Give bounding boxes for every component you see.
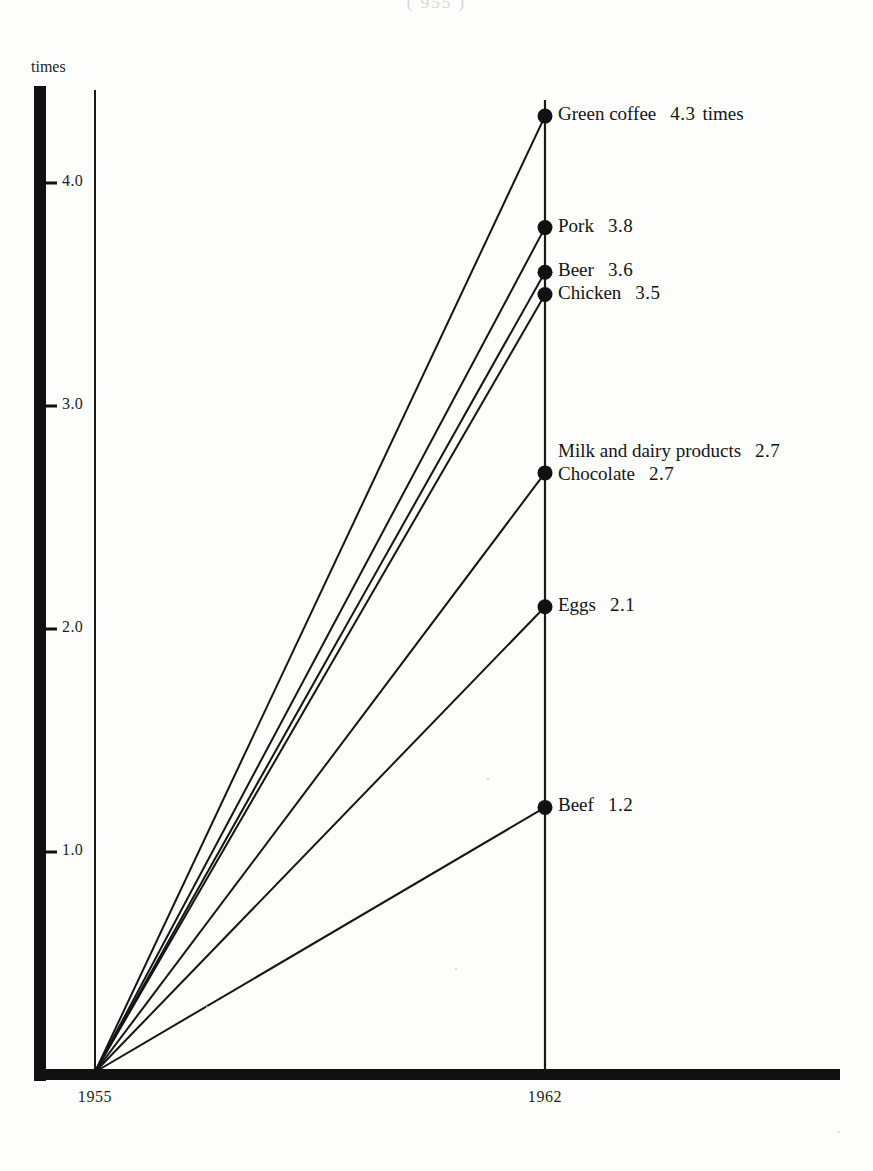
x-tick-label-1962: 1962 (528, 1088, 562, 1106)
series-endpoint-dot (538, 220, 553, 235)
series-endpoint-dot (538, 800, 553, 815)
series-line (95, 607, 545, 1072)
series-line (95, 807, 545, 1072)
paper-speckle (838, 1131, 840, 1133)
series-endpoint-dot (538, 287, 553, 302)
y-tick-label: 3.0 (62, 395, 83, 413)
series-value: 2.7 (755, 440, 780, 461)
series-label-pork: Pork3.8 (558, 215, 633, 236)
series-line (95, 116, 545, 1072)
series-endpoint-dot (538, 465, 553, 480)
y-axis-line (34, 86, 46, 1081)
y-axis-ticks (46, 182, 57, 854)
series-value: 4.3 (670, 103, 695, 124)
y-tick-mark (46, 182, 57, 185)
chart-page: ( 955 ) times 4.03.02.01.0 19551962 Gree… (0, 0, 873, 1171)
x-axis-line (34, 1069, 840, 1080)
y-tick-label: 1.0 (62, 841, 83, 859)
series-label-beer: Beer3.6 (558, 259, 633, 280)
series-name: Beef (558, 794, 594, 815)
paper-speckle (455, 968, 457, 970)
series-label-chocolate: Chocolate2.7 (558, 463, 674, 484)
series-endpoint-dot (538, 265, 553, 280)
series-name: Beer (558, 259, 594, 280)
series-name: Eggs (558, 594, 596, 615)
x-tick-label-1955: 1955 (78, 1088, 112, 1106)
y-tick-label: 4.0 (62, 172, 83, 190)
series-endpoint-dot (538, 109, 553, 124)
series-value: 3.6 (608, 259, 633, 280)
y-tick-mark (46, 851, 57, 854)
series-name: Green coffee (558, 103, 656, 124)
series-line (95, 473, 545, 1072)
series-endpoint-dot (538, 599, 553, 614)
series-name: Pork (558, 215, 594, 236)
y-tick-mark (46, 405, 57, 408)
y-tick-label: 2.0 (62, 618, 83, 636)
paper-speckle (206, 1006, 208, 1008)
series-name: Chicken (558, 282, 621, 303)
series-name: Chocolate (558, 463, 635, 484)
series-lines (95, 116, 545, 1072)
series-value: 3.5 (635, 282, 660, 303)
series-line (95, 272, 545, 1072)
series-label-green-coffee: Green coffee4.3times (558, 103, 744, 124)
series-unit: times (703, 103, 744, 124)
slope-chart-plot (0, 0, 873, 1171)
series-label-beef: Beef1.2 (558, 794, 633, 815)
paper-speckle (487, 778, 489, 780)
series-value: 2.1 (610, 594, 635, 615)
series-label-eggs: Eggs2.1 (558, 594, 635, 615)
series-line (95, 228, 545, 1072)
series-name: Milk and dairy products (558, 440, 741, 461)
series-line (95, 295, 545, 1073)
series-value: 2.7 (649, 463, 674, 484)
series-label-chicken: Chicken3.5 (558, 282, 661, 303)
y-tick-mark (46, 628, 57, 631)
series-label-milk-and-dairy-products: Milk and dairy products2.7 (558, 440, 780, 461)
series-value: 3.8 (608, 215, 633, 236)
series-value: 1.2 (608, 794, 633, 815)
